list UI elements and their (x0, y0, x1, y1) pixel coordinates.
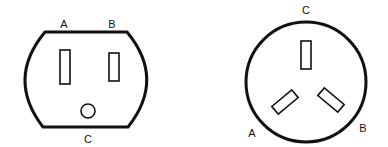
slot-c-right (301, 41, 311, 69)
label-b-right: B (359, 122, 366, 134)
label-a-right: A (248, 127, 256, 139)
label-b-left: B (108, 18, 115, 30)
outlet-diagram: A B C C A B (0, 0, 388, 147)
slot-b-left (109, 53, 119, 81)
label-c-right: C (302, 4, 310, 16)
label-c-left: C (84, 133, 92, 145)
ground-hole-c-left (81, 104, 95, 118)
us-style-outlet: A B C (25, 18, 147, 145)
outlet-face-circle (246, 22, 366, 142)
slot-a-right (272, 90, 298, 114)
outlet-face-outline (25, 32, 147, 127)
slot-b-right (318, 88, 344, 112)
slot-a-left (60, 50, 70, 84)
label-a-left: A (60, 18, 68, 30)
round-three-pin-outlet: C A B (246, 4, 367, 142)
